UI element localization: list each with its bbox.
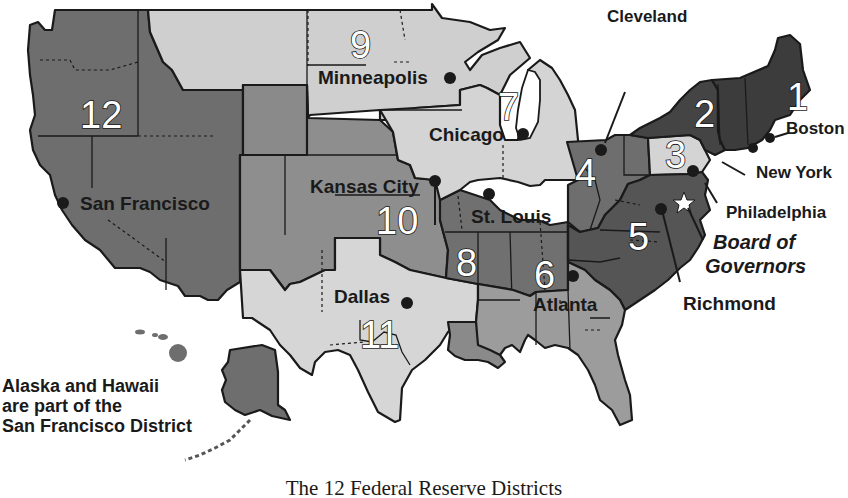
city-label-new-york: New York <box>756 163 832 182</box>
city-label-chicago: Chicago <box>429 124 504 145</box>
city-label-richmond: Richmond <box>683 293 776 314</box>
board-of-governors-label-line2: Governors <box>705 255 806 277</box>
note-line-2: are part of the <box>2 396 192 416</box>
alaska-hawaii-note: Alaska and Hawaii are part of the San Fr… <box>2 376 192 436</box>
atlanta-marker[interactable] <box>567 270 579 282</box>
district-number-2: 2 <box>694 93 715 135</box>
city-label-boston: Boston <box>786 119 845 138</box>
city-label-dallas: Dallas <box>334 286 390 307</box>
district-number-11: 11 <box>360 314 399 356</box>
cleveland-marker[interactable] <box>595 144 607 156</box>
philadelphia-marker[interactable] <box>687 165 699 177</box>
district-number-10: 10 <box>376 200 418 242</box>
city-label-kansas-city: Kansas City <box>310 176 419 197</box>
city-label-san-francisco: San Francisco <box>80 193 210 214</box>
wyoming-state <box>243 85 307 155</box>
map-caption: The 12 Federal Reserve Districts <box>0 476 848 498</box>
minneapolis-marker[interactable] <box>444 72 456 84</box>
district-number-9: 9 <box>350 24 371 66</box>
note-line-3: San Francisco District <box>2 416 192 436</box>
district-number-1: 1 <box>787 76 808 118</box>
district-number-8: 8 <box>456 242 477 284</box>
hawaii-islands[interactable] <box>135 330 187 363</box>
board-of-governors-label-line1: Board of <box>713 231 798 253</box>
district-number-5: 5 <box>628 216 649 258</box>
new-york-marker[interactable] <box>748 143 758 153</box>
richmond-marker[interactable] <box>655 203 667 215</box>
chicago-marker[interactable] <box>517 128 529 140</box>
district-number-4: 4 <box>575 152 596 194</box>
city-label-minneapolis: Minneapolis <box>318 67 428 88</box>
city-label-cleveland: Cleveland <box>607 7 687 26</box>
note-line-1: Alaska and Hawaii <box>2 376 192 396</box>
city-label-atlanta: Atlanta <box>533 294 598 315</box>
san-francisco-marker[interactable] <box>57 197 69 209</box>
boston-marker[interactable] <box>765 133 775 143</box>
city-label-philadelphia: Philadelphia <box>726 203 827 222</box>
district-number-6: 6 <box>534 254 555 296</box>
district-number-12: 12 <box>80 94 122 136</box>
city-label-st-louis: St. Louis <box>471 206 551 227</box>
district-number-3: 3 <box>665 134 686 176</box>
st-louis-marker[interactable] <box>483 188 495 200</box>
district-number-7: 7 <box>498 86 519 128</box>
alaska-state[interactable] <box>222 345 290 420</box>
dallas-marker[interactable] <box>401 297 413 309</box>
